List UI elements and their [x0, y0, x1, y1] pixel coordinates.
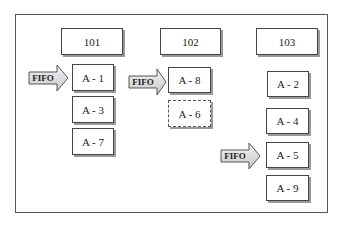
queue-item-a2: A - 2	[267, 71, 309, 97]
queue-item-a4: A - 4	[266, 108, 309, 134]
fifo-label: FIFO	[29, 64, 57, 92]
queue-item-a5: A - 5	[266, 142, 309, 168]
fifo-arrow-101: FIFO	[28, 64, 70, 92]
queue-item-a8: A - 8	[168, 67, 211, 93]
queue-item-a3: A - 3	[72, 96, 114, 123]
column-header-102: 102	[160, 28, 221, 55]
queue-item-a7: A - 7	[72, 128, 114, 155]
queue-item-a6-dashed: A - 6	[168, 100, 211, 127]
queue-item-a9: A - 9	[266, 175, 309, 201]
fifo-label: FIFO	[129, 68, 157, 96]
column-header-103: 103	[256, 28, 318, 55]
column-header-101: 101	[61, 28, 123, 55]
fifo-arrow-102: FIFO	[128, 68, 168, 96]
queue-item-a1: A - 1	[72, 64, 114, 91]
fifo-label: FIFO	[221, 142, 249, 170]
fifo-arrow-103: FIFO	[220, 142, 262, 170]
